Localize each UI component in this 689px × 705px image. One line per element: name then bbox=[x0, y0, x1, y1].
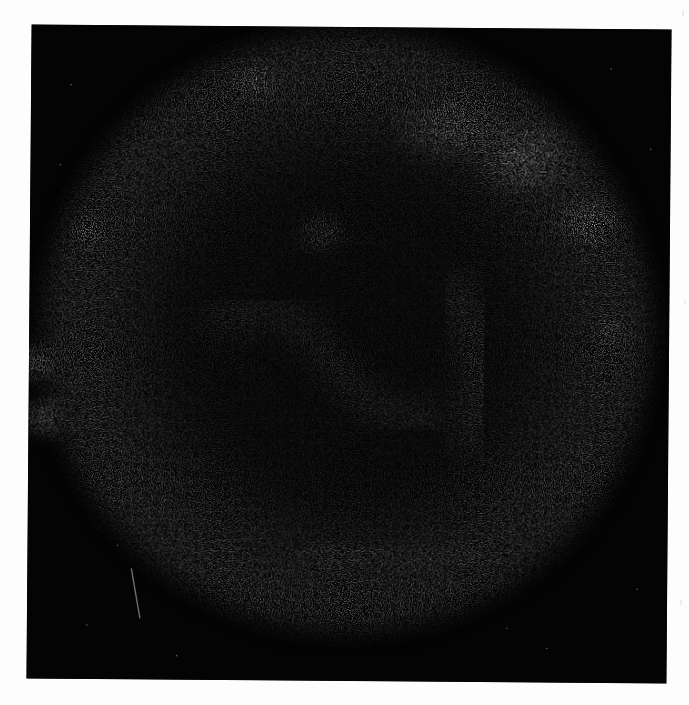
supernova-remnant-image bbox=[26, 24, 671, 683]
right-mid-knot bbox=[588, 310, 636, 354]
scan-artifact bbox=[682, 10, 684, 16]
nebula-render bbox=[26, 24, 671, 683]
scan-artifact bbox=[684, 300, 686, 304]
central-knot bbox=[291, 207, 351, 259]
scan-artifact bbox=[680, 600, 682, 605]
scanned-page bbox=[0, 0, 689, 705]
left-knot bbox=[65, 213, 113, 253]
